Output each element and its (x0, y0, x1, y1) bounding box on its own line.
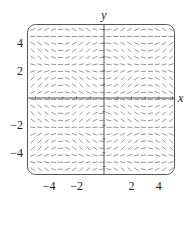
slope-segment (127, 162, 132, 163)
slope-segment (169, 133, 174, 135)
slope-segment (93, 112, 97, 115)
slope-segment (127, 133, 132, 135)
slope-segment (31, 56, 35, 59)
slope-segment (30, 64, 35, 65)
slope-segment (86, 56, 90, 59)
y-tick-label: 2 (17, 64, 23, 78)
slope-segment (93, 77, 98, 80)
slope-segment (162, 147, 166, 150)
slope-segment (51, 162, 56, 163)
slope-segment (45, 56, 49, 59)
slope-segment (51, 84, 56, 86)
slope-segment (72, 84, 76, 87)
slope-segment (72, 77, 76, 80)
slope-segment (93, 92, 98, 94)
x-axis-label: x (177, 91, 184, 105)
slope-segment (141, 29, 146, 30)
slope-segment (120, 127, 125, 128)
slope-segment (65, 57, 70, 59)
slope-segment (141, 169, 146, 170)
slope-segment (38, 105, 42, 108)
slope-segment (72, 49, 76, 52)
slope-segment (127, 64, 132, 65)
slope-segment (51, 92, 56, 93)
slope-segment (92, 64, 97, 65)
slope-segment (38, 84, 42, 88)
slope-segment (92, 162, 97, 163)
slope-segment (141, 113, 146, 114)
slope-segment (169, 162, 174, 163)
slope-segment (30, 133, 35, 135)
slope-segment (169, 91, 174, 93)
slope-segment (128, 49, 132, 53)
slope-segment (134, 99, 139, 100)
slope-segment (86, 71, 91, 73)
slope-segment (169, 84, 173, 88)
slope-segment (30, 154, 35, 156)
slope-segment (51, 112, 56, 114)
slope-segment (65, 112, 70, 114)
slope-segment (106, 112, 111, 114)
slope-segment (121, 49, 125, 53)
slope-segment (121, 140, 125, 144)
slope-segment (134, 112, 138, 115)
slope-segment (65, 29, 70, 30)
slope-segment (65, 77, 70, 79)
slope-segment (86, 140, 90, 143)
slope-segment (120, 133, 125, 135)
slope-segment (148, 29, 153, 30)
slope-segment (134, 155, 139, 156)
slope-segment (31, 147, 35, 150)
slope-segment (86, 84, 90, 87)
slope-segment (155, 49, 159, 52)
slope-segment (38, 119, 42, 122)
slope-segment (86, 119, 90, 122)
slope-segment (162, 49, 166, 53)
slope-segment (31, 105, 35, 108)
slope-segment (162, 119, 166, 122)
slope-segment (162, 91, 167, 93)
slope-segment (44, 133, 49, 135)
slope-segment (134, 127, 139, 128)
slope-segment (169, 77, 173, 80)
slope-segment (148, 120, 153, 121)
slope-segment (127, 91, 132, 93)
slope-segment (31, 42, 35, 45)
x-tick-label: −4 (43, 179, 56, 193)
slope-segment (30, 99, 35, 100)
slope-segment (65, 71, 70, 72)
slope-segment (38, 77, 42, 81)
slope-segment (113, 162, 118, 163)
slope-segment (93, 155, 98, 156)
slope-segment (121, 168, 125, 171)
slope-segment (120, 64, 125, 65)
slope-segment (155, 155, 160, 156)
slope-segment (79, 91, 84, 93)
slope-segment (79, 162, 84, 163)
slope-segment (72, 133, 77, 135)
slope-segment (93, 71, 98, 72)
slope-segment (155, 112, 159, 115)
slope-segment (113, 64, 118, 65)
slope-segment (155, 71, 160, 72)
slope-segment (169, 105, 173, 108)
slope-segment (155, 162, 160, 163)
slope-segment (155, 127, 160, 128)
slope-segment (93, 147, 98, 150)
slope-segment (31, 140, 35, 143)
slope-segment (155, 77, 159, 80)
slope-segment (106, 64, 111, 65)
slope-segment (113, 91, 118, 93)
slope-segment (37, 64, 42, 65)
slope-segment (141, 155, 146, 156)
slope-segment (79, 77, 83, 80)
slope-segment (79, 84, 83, 88)
slope-segment (121, 42, 125, 45)
slope-segment (134, 77, 138, 80)
slope-segment (114, 105, 119, 108)
slope-segment (162, 84, 166, 88)
slope-segment (141, 57, 146, 58)
slope-segment (79, 56, 83, 59)
y-tick-label: 4 (17, 36, 23, 50)
slope-segment (162, 99, 167, 100)
